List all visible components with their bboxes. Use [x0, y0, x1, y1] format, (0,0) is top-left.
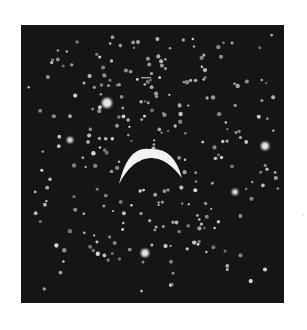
crescent: [119, 149, 182, 184]
photo-plate: [21, 25, 284, 303]
spot-field: [21, 25, 284, 303]
margin-speck: [302, 214, 304, 215]
dash-mark: [141, 77, 151, 79]
